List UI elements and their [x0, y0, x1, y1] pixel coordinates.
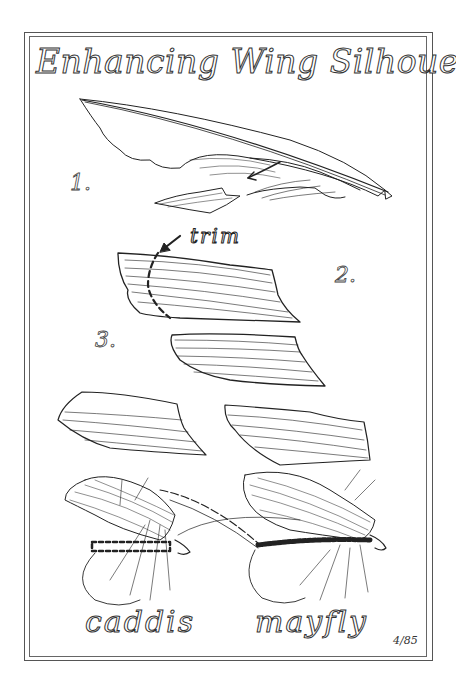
wing-trimmed	[171, 334, 325, 386]
trim-annotation: trim	[190, 224, 241, 248]
wing-pair	[58, 392, 370, 465]
artist-signature: 4/85	[393, 634, 418, 647]
wing-section-trim	[118, 236, 300, 322]
mayfly-caption: mayfly	[255, 604, 368, 639]
step-3-label: 3.	[95, 327, 116, 352]
illustration	[0, 0, 456, 682]
caddis-caption: caddis	[85, 604, 195, 639]
step-1-label: 1.	[70, 170, 91, 195]
step-2-label: 2.	[335, 262, 356, 287]
feather-drawing	[80, 99, 392, 213]
mayfly-drawing	[160, 470, 386, 603]
